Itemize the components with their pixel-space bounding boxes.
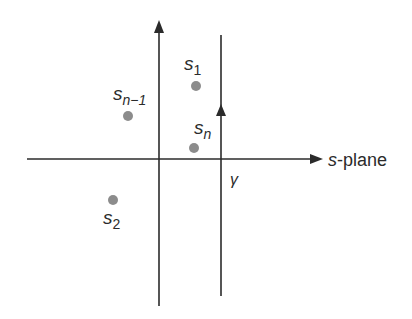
real-axis: [27, 154, 323, 164]
point-s2: [108, 195, 118, 205]
label-s1: s1: [184, 53, 202, 78]
label-s-n-minus-1: sn−1: [113, 83, 146, 108]
arrow-right-icon: [310, 154, 323, 164]
arrow-up-icon: [154, 20, 164, 33]
arrow-up-icon: [216, 104, 226, 116]
label-s-plane: s-plane: [328, 150, 387, 170]
label-s-n: sn: [194, 117, 212, 142]
point-s1: [191, 81, 201, 91]
imaginary-axis: [154, 20, 164, 306]
s-plane-diagram: s1 sn−1 sn s2 γ s-plane: [0, 0, 412, 319]
point-s-n-minus-1: [123, 111, 133, 121]
label-s2: s2: [103, 207, 121, 232]
gamma-contour: [216, 35, 226, 296]
point-s-n: [189, 143, 199, 153]
label-gamma: γ: [230, 171, 239, 188]
